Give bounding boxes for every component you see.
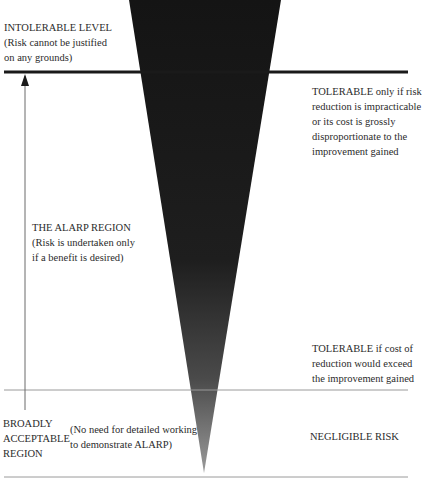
broadly-acceptable-heading-3: REGION [3, 446, 70, 461]
intolerable-heading: INTOLERABLE LEVEL [4, 20, 112, 35]
tolerable-upper-line-3: or its cost is grossly [312, 114, 422, 129]
arrowhead-icon [21, 74, 29, 86]
alarp-label: THE ALARP REGION (Risk is undertaken onl… [32, 220, 135, 265]
tolerable-upper-line-2: reduction is impracticable [312, 99, 422, 114]
tolerable-upper-line-5: improvement gained [312, 144, 422, 159]
tolerable-upper-line-1: TOLERABLE only if risk [312, 84, 422, 99]
broadly-acceptable-note-line-1: (No need for detailed working [70, 422, 197, 437]
alarp-desc-line-2: if a benefit is desired) [32, 250, 135, 265]
broadly-acceptable-note-line-2: to demonstrate ALARP) [70, 437, 197, 452]
broadly-acceptable-heading-2: ACCEPTABLE [3, 431, 70, 446]
broadly-acceptable-label: BROADLY ACCEPTABLE REGION [3, 416, 70, 461]
broadly-acceptable-heading-1: BROADLY [3, 416, 70, 431]
alarp-heading: THE ALARP REGION [32, 220, 135, 235]
tolerable-upper-line-4: disproportionate to the [312, 129, 422, 144]
negligible-risk-label: NEGLIGIBLE RISK [310, 429, 399, 444]
tolerable-upper-label: TOLERABLE only if risk reduction is impr… [312, 84, 422, 159]
tolerable-lower-line-3: the improvement gained [312, 371, 414, 386]
tolerable-lower-label: TOLERABLE if cost of reduction would exc… [312, 341, 414, 386]
intolerable-label: INTOLERABLE LEVEL (Risk cannot be justif… [4, 20, 112, 65]
tolerable-lower-line-1: TOLERABLE if cost of [312, 341, 414, 356]
intolerable-desc-line-2: on any grounds) [4, 50, 112, 65]
intolerable-desc-line-1: (Risk cannot be justified [4, 35, 112, 50]
alarp-desc-line-1: (Risk is undertaken only [32, 235, 135, 250]
tolerable-lower-line-2: reduction would exceed [312, 356, 414, 371]
broadly-acceptable-note: (No need for detailed working to demonst… [70, 422, 197, 452]
